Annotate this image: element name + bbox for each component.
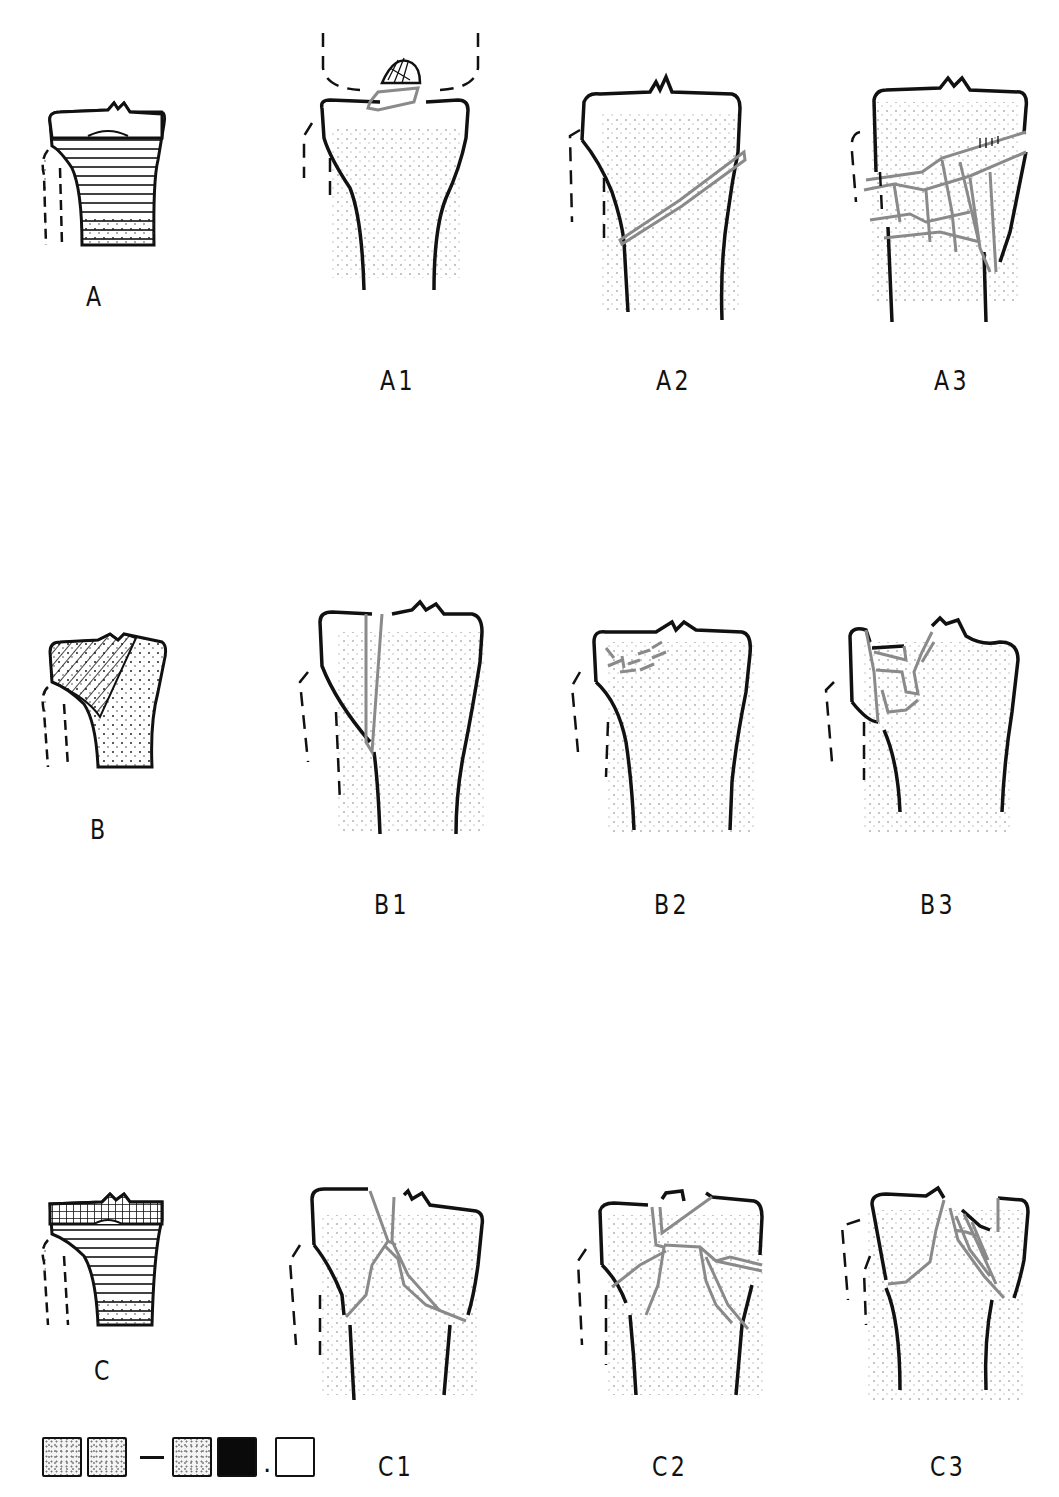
subgroup-label-a3: A3 [934, 366, 970, 396]
tibia-b3-fracture-icon [822, 612, 1022, 842]
fracture-c2 [566, 1185, 776, 1405]
tibia-a2-fracture-icon [560, 72, 760, 322]
subgroup-label-a2: A2 [656, 366, 692, 396]
tibia-c1-fracture-icon [280, 1185, 490, 1405]
code-box-bone [42, 1437, 82, 1477]
type-label-b: B [90, 815, 109, 845]
tibia-type-a-icon [38, 100, 168, 250]
code-box-type [172, 1437, 212, 1477]
code-box-segment [87, 1437, 127, 1477]
subgroup-label-a1: A1 [380, 366, 416, 396]
code-box-group [217, 1437, 257, 1477]
tibia-b2-fracture-icon [566, 612, 766, 842]
subgroup-label-c2: C2 [652, 1452, 688, 1482]
fracture-b2 [566, 612, 766, 842]
fracture-a2 [560, 72, 760, 322]
tibia-type-c-icon [38, 1190, 168, 1330]
code-dot-separator: . [263, 1450, 271, 1476]
classification-code-legend: . [42, 1434, 320, 1480]
subgroup-label-b3: B3 [920, 890, 956, 920]
subgroup-label-b2: B2 [654, 890, 690, 920]
fracture-b3 [822, 612, 1022, 842]
fracture-c3 [826, 1180, 1036, 1405]
fracture-b1 [296, 602, 496, 837]
tibia-type-b-icon [38, 632, 168, 772]
type-label-c: C [94, 1356, 113, 1386]
code-dash-separator [140, 1456, 164, 1459]
type-label-a: A [86, 282, 105, 312]
tibia-c2-fracture-icon [566, 1185, 776, 1405]
subgroup-label-c3: C3 [930, 1452, 966, 1482]
fracture-c1 [280, 1185, 490, 1405]
tibia-b1-fracture-icon [296, 602, 496, 837]
code-box-subgroup [275, 1437, 315, 1477]
fracture-a1 [290, 28, 490, 298]
tibia-c3-fracture-icon [826, 1180, 1036, 1405]
type-b-schematic [38, 632, 168, 772]
type-c-schematic [38, 1190, 168, 1330]
subgroup-label-b1: B1 [374, 890, 410, 920]
tibia-a1-fracture-icon [290, 28, 490, 298]
subgroup-label-c1: C1 [378, 1452, 414, 1482]
tibia-a3-fracture-icon [830, 72, 1040, 327]
fracture-a3 [830, 72, 1040, 327]
type-a-schematic [38, 100, 168, 250]
